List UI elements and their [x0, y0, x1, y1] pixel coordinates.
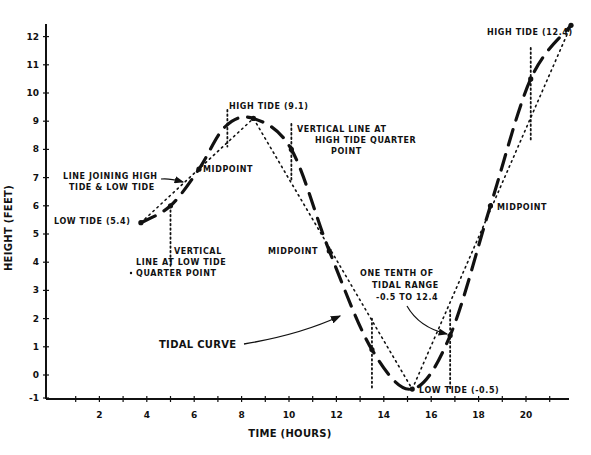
label-line-joining-2: TIDE & LOW TIDE: [69, 183, 155, 192]
label-vertical-low-1: VERTICAL: [174, 247, 222, 256]
arrow-line-joining: [161, 179, 183, 182]
y-tick-label: 10: [26, 88, 39, 98]
y-tick-label: 11: [26, 60, 39, 70]
y-tick-label: 4: [33, 257, 39, 267]
x-axis-title: TIME (HOURS): [248, 428, 331, 439]
label-one-tenth-2: TIDAL RANGE: [372, 281, 439, 290]
point-marker: [410, 387, 415, 392]
point-marker: [251, 116, 256, 121]
y-axis-title: HEIGHT (FEET): [3, 185, 14, 271]
y-tick-label: 0: [33, 370, 39, 380]
point-marker: [327, 248, 332, 253]
x-tick-label: 18: [472, 410, 485, 420]
label-midpoint-rising-2: MIDPOINT: [497, 203, 547, 212]
y-tick-label: 8: [33, 144, 39, 154]
bullet-dot: [130, 272, 132, 274]
arrow-tidal-curve: [244, 316, 340, 344]
label-one-tenth-3: -0.5 TO 12.4: [376, 293, 438, 302]
x-tick-label: 8: [238, 410, 244, 420]
label-one-tenth-1: ONE TENTH OF: [360, 269, 434, 278]
x-tick-label: 2: [96, 410, 102, 420]
label-high-tide-9-1: HIGH TIDE (9.1): [229, 102, 309, 111]
label-midpoint-rising: MIDPOINT: [203, 165, 253, 174]
y-tick-label: 7: [33, 173, 39, 183]
label-vertical-high-3: POINT: [331, 147, 362, 156]
point-marker: [138, 220, 143, 225]
x-axis-ticks: 2468101214161820: [76, 396, 550, 420]
y-tick-label: -1: [29, 393, 39, 403]
point-marker: [196, 167, 201, 172]
label-low-tide-neg-0-5: LOW TIDE (-0.5): [419, 386, 499, 395]
point-marker: [289, 147, 294, 152]
y-tick-label: 2: [33, 314, 39, 324]
arrow-one-tenth: [407, 306, 447, 334]
x-tick-label: 14: [378, 410, 391, 420]
label-vertical-low-2: LINE AT LOW TIDE: [136, 258, 226, 267]
y-tick-label: 5: [33, 229, 39, 239]
point-marker: [168, 203, 173, 208]
y-tick-label: 3: [33, 285, 39, 295]
y-tick-label: 6: [33, 201, 39, 211]
label-low-tide-5-4: LOW TIDE (5.4): [54, 217, 130, 226]
label-tidal-curve: TIDAL CURVE: [159, 339, 236, 350]
tidal-curve-chart: -10123456789101112 2468101214161820 TIME…: [0, 0, 591, 455]
label-line-joining-1: LINE JOINING HIGH: [63, 172, 158, 181]
label-high-tide-12-4: HIGH TIDE (12.4): [487, 28, 573, 37]
y-tick-label: 12: [26, 32, 39, 42]
y-tick-label: 1: [33, 342, 39, 352]
point-marker: [448, 333, 453, 338]
y-tick-label: 9: [33, 116, 39, 126]
annotations: LOW TIDE (5.4) LINE JOINING HIGH TIDE & …: [54, 28, 573, 395]
label-vertical-low-3: QUARTER POINT: [136, 269, 217, 278]
label-midpoint-falling: MIDPOINT: [268, 247, 318, 256]
x-tick-label: 4: [144, 410, 150, 420]
x-tick-label: 6: [191, 410, 197, 420]
point-marker: [528, 76, 533, 81]
x-tick-label: 12: [330, 410, 343, 420]
label-vertical-high-2: HIGH TIDE QUARTER: [315, 136, 416, 145]
x-tick-label: 16: [425, 410, 438, 420]
point-marker: [488, 203, 493, 208]
point-marker: [369, 347, 374, 352]
x-tick-label: 10: [283, 410, 296, 420]
label-vertical-high-1: VERTICAL LINE AT: [297, 125, 386, 134]
x-tick-label: 20: [520, 410, 533, 420]
vertical-reference-lines: [171, 48, 531, 389]
